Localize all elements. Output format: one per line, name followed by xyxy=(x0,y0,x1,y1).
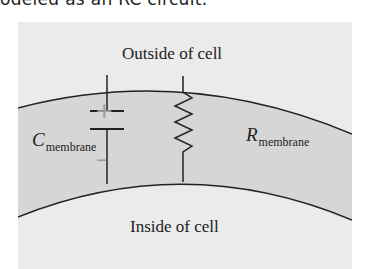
minus-sign: – xyxy=(96,146,107,171)
resistor-label: Rmembrane xyxy=(246,124,309,150)
capacitor-symbol-text: C xyxy=(32,129,45,150)
capacitor-label: Cmembrane xyxy=(32,129,96,155)
outside-of-cell-label: Outside of cell xyxy=(122,44,222,64)
resistor-subscript: membrane xyxy=(259,135,310,149)
plus-sign: + xyxy=(95,98,113,123)
inside-of-cell-label: Inside of cell xyxy=(130,217,219,237)
capacitor-subscript: membrane xyxy=(46,140,97,154)
resistor-symbol-text: R xyxy=(246,124,258,145)
membrane-circuit-diagram: Outside of cell Inside of cell + – Cmemb… xyxy=(18,22,352,269)
caption-text: odeled as an RC circuit. xyxy=(0,0,366,9)
